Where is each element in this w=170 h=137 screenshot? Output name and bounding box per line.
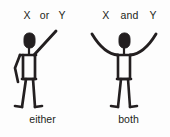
formula-or-var-right: Y <box>58 9 65 21</box>
stick-figure-and-icon <box>85 24 170 112</box>
panel-or: X or Y <box>0 0 85 137</box>
formula-and-operator: and <box>120 9 138 21</box>
head-or-icon <box>24 33 35 48</box>
formula-and-var-left: X <box>102 9 109 21</box>
formula-and-var-right: Y <box>150 9 157 21</box>
formula-or: X or Y <box>0 8 87 22</box>
formula-or-operator: or <box>40 9 50 21</box>
logic-stickman-diagram: X or Y <box>0 0 170 137</box>
stick-figure-or-icon <box>0 24 85 112</box>
caption-or: either <box>0 112 85 126</box>
head-and-icon <box>119 33 130 48</box>
formula-and: X and Y <box>85 8 170 22</box>
formula-or-var-left: X <box>23 9 30 21</box>
caption-and: both <box>85 112 170 126</box>
panel-and: X and Y <box>85 0 170 137</box>
